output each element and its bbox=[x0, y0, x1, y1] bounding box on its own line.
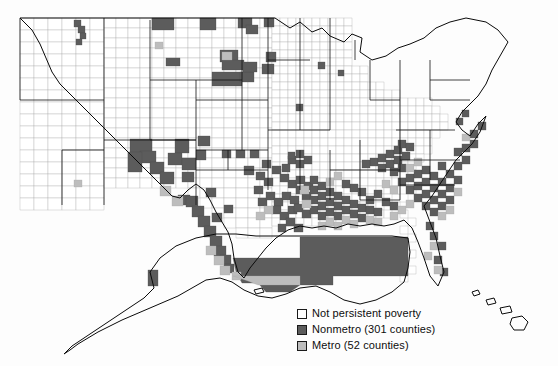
persistent-poverty-map-figure: Not persistent poverty Nonmetro (301 cou… bbox=[0, 0, 558, 366]
legend-swatch-metro bbox=[297, 341, 307, 351]
legend-label-metro: Metro (52 counties) bbox=[312, 340, 409, 351]
legend-label-not-persistent-poverty: Not persistent poverty bbox=[312, 308, 421, 319]
legend-swatch-nonmetro bbox=[297, 325, 307, 335]
legend-label-nonmetro: Nonmetro (301 counties) bbox=[312, 324, 435, 335]
legend-item-not-persistent-poverty: Not persistent poverty bbox=[297, 306, 477, 321]
map-legend: Not persistent poverty Nonmetro (301 cou… bbox=[297, 306, 477, 354]
legend-swatch-not-persistent-poverty bbox=[297, 309, 307, 319]
legend-item-nonmetro: Nonmetro (301 counties) bbox=[297, 322, 477, 337]
legend-item-metro: Metro (52 counties) bbox=[297, 338, 477, 353]
